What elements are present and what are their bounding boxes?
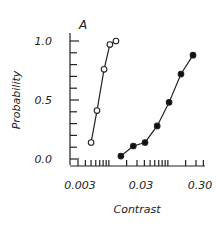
y-tick-label-0: 0.0 bbox=[35, 153, 53, 166]
filled-circles-marker bbox=[190, 52, 196, 58]
x-tick-label-0-003: 0.003 bbox=[64, 179, 96, 192]
y-axis-title: Probability bbox=[10, 70, 23, 129]
open-circles-marker bbox=[107, 42, 113, 48]
open-circles-marker bbox=[94, 108, 100, 114]
open-circles-line bbox=[91, 41, 116, 142]
y-tick-label-0-5: 0.5 bbox=[35, 94, 53, 107]
open-circles-marker bbox=[88, 140, 94, 146]
filled-circles-marker bbox=[154, 123, 160, 129]
filled-circles-marker bbox=[166, 100, 172, 106]
open-circles-marker bbox=[101, 67, 107, 73]
filled-circles-line bbox=[121, 55, 193, 156]
series-layer bbox=[88, 38, 196, 159]
filled-circles-marker bbox=[142, 140, 148, 146]
x-axis-title: Contrast bbox=[113, 203, 161, 216]
open-circles-marker bbox=[113, 38, 119, 44]
panel-label: A bbox=[78, 18, 87, 32]
x-tick-label-0-30: 0.30 bbox=[188, 179, 213, 192]
x-axis bbox=[70, 160, 205, 166]
x-tick-label-0-03: 0.03 bbox=[129, 179, 154, 192]
y-tick-label-1: 1.0 bbox=[35, 35, 53, 48]
psychometric-chart: A 1.0 0.5 0.0 0.003 0.03 0.30 Contrast P… bbox=[0, 0, 221, 228]
y-axis bbox=[70, 33, 79, 165]
filled-circles-marker bbox=[118, 153, 124, 159]
filled-circles-marker bbox=[178, 71, 184, 77]
filled-circles-marker bbox=[131, 143, 137, 149]
